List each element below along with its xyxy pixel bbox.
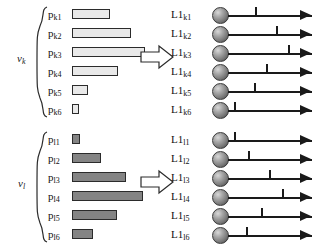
neuron-node[interactable] <box>212 189 229 206</box>
spike-tick <box>276 26 278 35</box>
neuron-node[interactable] <box>212 170 229 187</box>
axis-arrowhead-icon <box>300 48 311 58</box>
neuron-row: L1l4 <box>0 188 314 207</box>
spike-tick <box>248 151 250 160</box>
neuron-label: L1k5 <box>171 82 191 102</box>
spike-tick <box>254 83 256 92</box>
neuron-node[interactable] <box>212 64 229 81</box>
neuron-row: L1l6 <box>0 226 314 245</box>
neuron-label: L1l6 <box>171 226 189 246</box>
neuron-row: L1k1 <box>0 6 314 25</box>
spike-tick <box>234 102 236 111</box>
axis-arrowhead-icon <box>300 105 311 115</box>
group-l: vl pl1 pl2 pl3 pl4 <box>0 125 314 250</box>
neuron-label: L1k6 <box>171 101 191 121</box>
neuron-node[interactable] <box>212 151 229 168</box>
neuron-row: L1k6 <box>0 101 314 120</box>
neuron-node[interactable] <box>212 26 229 43</box>
neuron-label: L1k4 <box>171 63 191 83</box>
axis-arrowhead-icon <box>300 211 311 221</box>
axis-arrowhead-icon <box>300 173 311 183</box>
axis-arrowhead-icon <box>300 154 311 164</box>
spike-tick <box>246 227 248 236</box>
neuron-row: L1l3 <box>0 169 314 188</box>
spike-tick <box>234 132 236 141</box>
neuron-row: L1l5 <box>0 207 314 226</box>
neuron-label: L1l5 <box>171 207 189 227</box>
neuron-row: L1k5 <box>0 82 314 101</box>
neuron-label: L1l2 <box>171 150 189 170</box>
axis-arrowhead-icon <box>300 29 311 39</box>
spike-tick <box>288 45 290 54</box>
neuron-row: L1k2 <box>0 25 314 44</box>
neuron-node[interactable] <box>212 132 229 149</box>
neuron-label: L1k2 <box>171 25 191 45</box>
neuron-node[interactable] <box>212 227 229 244</box>
neuron-node[interactable] <box>212 83 229 100</box>
axis-arrowhead-icon <box>300 192 311 202</box>
axis-arrowhead-icon <box>300 135 311 145</box>
axis-arrowhead-icon <box>300 67 311 77</box>
axis-arrowhead-icon <box>300 86 311 96</box>
axis-arrowhead-icon <box>300 10 311 20</box>
neuron-label: L1l1 <box>171 131 189 151</box>
neuron-label: L1l3 <box>171 169 189 189</box>
spike-tick <box>261 208 263 217</box>
neuron-node[interactable] <box>212 102 229 119</box>
spike-tick <box>269 170 271 179</box>
diagram-canvas: vk pk1 pk2 pk3 pk4 <box>0 0 314 250</box>
neuron-label: L1k1 <box>171 6 191 26</box>
spike-tick <box>266 64 268 73</box>
neuron-node[interactable] <box>212 208 229 225</box>
neuron-row: L1k3 <box>0 44 314 63</box>
neuron-node[interactable] <box>212 45 229 62</box>
group-k: vk pk1 pk2 pk3 pk4 <box>0 0 314 125</box>
neuron-row: L1k4 <box>0 63 314 82</box>
spike-tick <box>255 7 257 16</box>
neuron-row: L1l2 <box>0 150 314 169</box>
neuron-label: L1k3 <box>171 44 191 64</box>
axis-arrowhead-icon <box>300 230 311 240</box>
neuron-label: L1l4 <box>171 188 189 208</box>
neuron-node[interactable] <box>212 7 229 24</box>
spike-tick <box>282 189 284 198</box>
neuron-row: L1l1 <box>0 131 314 150</box>
